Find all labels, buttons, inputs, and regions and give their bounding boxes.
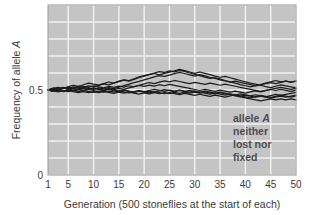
x-tick-label-40: 40 [240,179,252,190]
annotation-line-2: neither [233,125,268,137]
x-tick-label-45: 45 [265,179,277,190]
x-tick-label-25: 25 [164,179,176,190]
x-tick-label-35: 35 [215,179,227,190]
x-axis-title: Generation (500 stoneflies at the start … [64,198,281,210]
annotation-line-1-allele: A [261,112,270,124]
x-tick-label-5: 5 [65,179,71,190]
y-axis-title: Frequency of allele A [10,41,22,140]
y-tick-label-0: 0 [37,170,43,181]
y-axis-title-text: Frequency of allele [10,48,22,140]
y-tick-label-0.5: 0.5 [29,85,43,96]
x-tick-label-30: 30 [189,179,201,190]
y-axis-title-allele: A [10,41,22,49]
x-tick-label-1: 1 [45,179,51,190]
annotation-line-1-text: allele [233,112,262,124]
x-tick-label-15: 15 [113,179,125,190]
chart-figure: 0.5 0 15101520253035404550 Frequency of … [0,0,314,215]
x-tick-label-20: 20 [139,179,151,190]
x-tick-label-10: 10 [88,179,100,190]
genetic-drift-line-chart: 0.5 0 15101520253035404550 Frequency of … [0,0,314,215]
annotation-line-1: allele A [233,112,270,124]
x-tick-label-50: 50 [290,179,302,190]
annotation-line-3: lost nor [233,138,272,150]
annotation-line-4: fixed [233,151,258,163]
